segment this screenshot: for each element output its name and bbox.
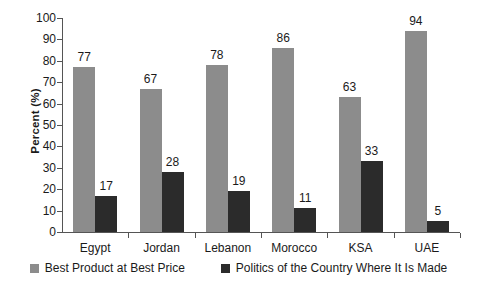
x-axis-tick-mark <box>128 233 129 238</box>
bar-chart: Percent (%) 1009080706050403020100 7717E… <box>0 0 477 288</box>
x-axis-tick-mark <box>261 233 262 238</box>
bar-value-label: 28 <box>152 156 194 168</box>
y-axis-tick-label: 30 <box>30 162 56 174</box>
legend-item: Politics of the Country Where It Is Made <box>221 262 447 274</box>
x-axis-tick-mark <box>460 233 461 238</box>
chart-legend: Best Product at Best PricePolitics of th… <box>0 260 477 276</box>
x-axis-category-label: KSA <box>327 242 393 254</box>
legend-swatch-icon <box>221 264 230 273</box>
y-axis-tick-mark <box>57 146 62 147</box>
bar-value-label: 77 <box>63 51 105 63</box>
x-axis-category-label: UAE <box>394 242 460 254</box>
bar <box>73 67 95 232</box>
y-axis-tick-label: 40 <box>30 140 56 152</box>
y-axis-tick-labels: 1009080706050403020100 <box>30 0 56 288</box>
bar-value-label: 86 <box>262 32 304 44</box>
bar <box>339 97 361 232</box>
legend-item: Best Product at Best Price <box>30 262 185 274</box>
bar-value-label: 67 <box>130 73 172 85</box>
y-axis-tick-label: 60 <box>30 98 56 110</box>
bar <box>405 31 427 232</box>
bar <box>294 208 316 232</box>
y-axis-tick-label: 90 <box>30 33 56 45</box>
y-axis-tick-label: 10 <box>30 205 56 217</box>
bar-value-label: 33 <box>351 145 393 157</box>
y-axis-tick-label: 80 <box>30 55 56 67</box>
bar-value-label: 11 <box>284 192 326 204</box>
bar <box>206 65 228 232</box>
x-axis-tick-mark <box>195 233 196 238</box>
bar-value-label: 78 <box>196 49 238 61</box>
bar-value-label: 63 <box>329 81 371 93</box>
y-axis-tick-label: 50 <box>30 119 56 131</box>
legend-label: Politics of the Country Where It Is Made <box>236 262 447 274</box>
y-axis-tick-mark <box>57 125 62 126</box>
bar <box>228 191 250 232</box>
y-axis-tick-label: 100 <box>30 12 56 24</box>
y-axis-tick-label: 0 <box>30 226 56 238</box>
y-axis-tick-mark <box>57 39 62 40</box>
bar <box>361 161 383 232</box>
x-axis-category-label: Lebanon <box>195 242 261 254</box>
legend-swatch-icon <box>30 264 39 273</box>
bar-value-label: 17 <box>85 180 127 192</box>
x-axis-category-label: Morocco <box>261 242 327 254</box>
y-axis-tick-label: 20 <box>30 183 56 195</box>
y-axis-tick-mark <box>57 189 62 190</box>
x-axis-category-label: Jordan <box>128 242 194 254</box>
y-axis-tick-label: 70 <box>30 76 56 88</box>
y-axis-tick-mark <box>57 61 62 62</box>
bar-value-label: 94 <box>395 15 437 27</box>
bar <box>162 172 184 232</box>
y-axis-tick-mark <box>57 82 62 83</box>
x-axis-category-label: Egypt <box>62 242 128 254</box>
bar <box>427 221 449 232</box>
y-axis-tick-mark <box>57 104 62 105</box>
legend-label: Best Product at Best Price <box>45 262 185 274</box>
bar-value-label: 5 <box>417 205 459 217</box>
y-axis-tick-mark <box>57 211 62 212</box>
y-axis-tick-mark <box>57 232 62 233</box>
y-axis-tick-mark <box>57 18 62 19</box>
x-axis-tick-mark <box>394 233 395 238</box>
x-axis-tick-mark <box>327 233 328 238</box>
bar-value-label: 19 <box>218 175 260 187</box>
y-axis-tick-mark <box>57 168 62 169</box>
plot-area: 7717Egypt6728Jordan7819Lebanon8611Morocc… <box>62 0 460 288</box>
bar <box>95 196 117 232</box>
